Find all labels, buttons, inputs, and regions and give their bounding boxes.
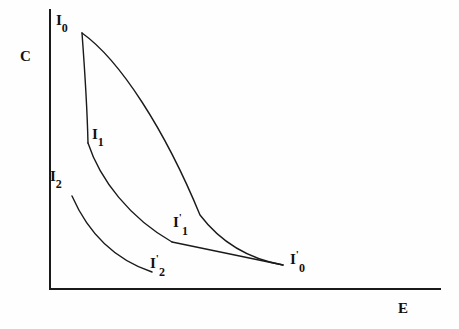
curve-i1-i0- <box>172 242 283 265</box>
y-axis-label: C <box>20 48 31 65</box>
x-axis-label: E <box>398 300 408 317</box>
label-subscript: 2 <box>56 177 62 191</box>
label-subscript: 0 <box>299 261 305 275</box>
label-prime: ' <box>179 211 182 223</box>
label-base: I <box>92 126 98 142</box>
label-subscript: 1 <box>182 224 188 238</box>
label-subscript: 2 <box>159 265 165 279</box>
curve-i1-i1- <box>88 143 172 242</box>
label-I0: I0 <box>56 12 68 31</box>
label-subscript: 0 <box>62 21 68 35</box>
label-I2-prime: I'2 <box>150 253 165 275</box>
curve-i0-i1 <box>82 33 88 143</box>
label-I1-prime: I'1 <box>173 212 188 234</box>
label-I0-prime: I'0 <box>290 249 305 271</box>
label-I2: I2 <box>50 168 62 187</box>
label-prime: ' <box>296 248 299 260</box>
label-subscript: 1 <box>98 135 104 149</box>
plot-canvas <box>0 0 459 329</box>
label-base: I <box>50 168 56 184</box>
label-base: I <box>56 12 62 28</box>
curves-group <box>72 33 283 272</box>
curve-i2-i2- <box>72 196 152 272</box>
label-prime: ' <box>156 252 159 264</box>
figure-container: C E I0I1I2I'1I'2I'0 <box>0 0 459 329</box>
label-I1: I1 <box>92 126 104 145</box>
